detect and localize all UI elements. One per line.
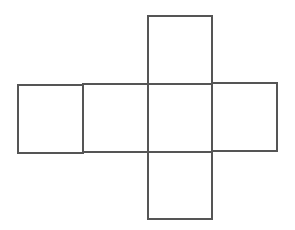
cube-net-diagram	[0, 0, 295, 230]
cube-face-top	[148, 16, 212, 84]
cube-face-left	[83, 84, 148, 152]
cube-face-right	[212, 83, 277, 151]
cube-face-bottom	[148, 152, 212, 219]
cube-face-far-left	[18, 85, 83, 153]
cube-face-center	[148, 84, 212, 152]
